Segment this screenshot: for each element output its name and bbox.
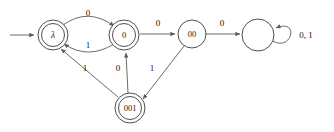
- state-lambda-label: λ: [50, 30, 55, 40]
- transition-0-to-lambda-label: 1: [86, 40, 91, 50]
- transition-trap-self-loop: 0, 1: [273, 26, 313, 43]
- transition-001-to-0: 0: [116, 53, 128, 93]
- transition-001-to-0-path: [126, 53, 128, 93]
- state-001-label: 001: [124, 103, 137, 113]
- transition-001-to-lambda: 1: [61, 49, 118, 97]
- transition-00-to-001: 1: [143, 46, 184, 99]
- transition-00-to-trap: 0: [206, 18, 240, 34]
- transition-0-to-00-label: 0: [156, 18, 161, 28]
- state-trap-circle: [242, 19, 274, 51]
- automaton-canvas: 0 1 0 0 1 0 1: [0, 0, 334, 132]
- transition-00-to-trap-label: 0: [220, 18, 225, 28]
- transition-lambda-to-0: 0: [63, 8, 114, 26]
- state-0-label: 0: [122, 30, 126, 40]
- automaton-diagram: 0 1 0 0 1 0 1: [0, 0, 334, 132]
- state-lambda[interactable]: λ: [38, 20, 68, 50]
- transition-0-to-00: 0: [140, 18, 175, 34]
- state-0[interactable]: 0: [109, 20, 139, 50]
- transition-001-to-lambda-path: [61, 49, 118, 97]
- transition-00-to-001-label: 1: [150, 63, 155, 73]
- state-00-label: 00: [188, 29, 197, 39]
- state-trap[interactable]: [242, 19, 274, 51]
- state-001[interactable]: 001: [115, 93, 145, 123]
- transition-001-to-0-label: 0: [116, 63, 121, 73]
- transition-trap-self-loop-label: 0, 1: [299, 30, 313, 40]
- transition-001-to-lambda-label: 1: [83, 63, 88, 73]
- transition-trap-self-loop-path: [273, 26, 291, 43]
- state-00[interactable]: 00: [178, 20, 206, 48]
- transition-lambda-to-0-label: 0: [86, 8, 91, 18]
- transition-0-to-lambda: 1: [64, 40, 114, 52]
